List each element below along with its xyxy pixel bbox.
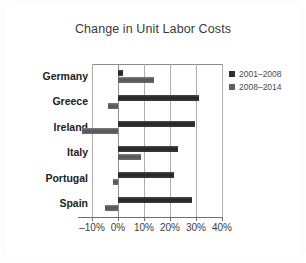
bar-germany-series2: [118, 77, 154, 83]
category-label-italy: Italy: [67, 146, 88, 158]
bar-greece-series1: [118, 95, 199, 101]
bar-greece-series2: [108, 103, 118, 109]
bar-group-portugal: [92, 166, 222, 192]
bar-spain-series1: [118, 197, 192, 203]
x-tick-20: [170, 217, 171, 221]
gridline-40: [222, 64, 223, 217]
x-axis-line: [78, 217, 223, 218]
chart-legend: 2001–20082008–2014: [229, 68, 301, 94]
bar-group-germany: [92, 64, 222, 90]
bar-group-spain: [92, 192, 222, 218]
bar-group-italy: [92, 141, 222, 167]
x-tick-label: 10%: [134, 222, 154, 233]
bar-italy-series1: [118, 146, 178, 152]
x-tick--10: [92, 217, 93, 221]
legend-label: 2001–2008: [239, 69, 282, 79]
bar-germany-series1: [118, 70, 123, 76]
bar-spain-series2: [105, 205, 118, 211]
category-label-germany: Germany: [42, 70, 88, 82]
x-tick-label: 40%: [212, 222, 232, 233]
plot-area: [92, 64, 222, 217]
x-tick-10: [144, 217, 145, 221]
category-label-portugal: Portugal: [45, 172, 88, 184]
x-tick-label: 20%: [160, 222, 180, 233]
legend-item-1[interactable]: 2001–2008: [229, 68, 301, 79]
bar-group-greece: [92, 90, 222, 116]
category-label-greece: Greece: [52, 95, 88, 107]
x-tick-40: [222, 217, 223, 221]
bar-group-ireland: [92, 115, 222, 141]
bar-portugal-series2: [113, 179, 118, 185]
x-tick-0: [118, 217, 119, 221]
x-tick-30: [196, 217, 197, 221]
chart-title: Change in Unit Labor Costs: [0, 22, 306, 36]
x-tick-label: –10%: [79, 222, 105, 233]
category-label-spain: Spain: [59, 197, 88, 209]
x-tick-label: 0%: [111, 222, 125, 233]
x-tick-label: 30%: [186, 222, 206, 233]
chart-card: Change in Unit Labor Costs GermanyGreece…: [0, 0, 306, 263]
legend-swatch-icon: [229, 71, 235, 77]
bar-ireland-series2: [82, 128, 118, 134]
bar-portugal-series1: [118, 172, 174, 178]
bar-italy-series2: [118, 154, 141, 160]
legend-label: 2008–2014: [239, 82, 282, 92]
legend-item-2[interactable]: 2008–2014: [229, 81, 301, 92]
bar-ireland-series1: [118, 121, 195, 127]
legend-swatch-icon: [229, 84, 235, 90]
category-axis: GermanyGreeceIrelandItalyPortugalSpain: [14, 64, 88, 217]
